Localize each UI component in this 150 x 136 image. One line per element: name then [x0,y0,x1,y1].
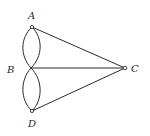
node-c [123,66,127,70]
edge-b-d-right [31,68,40,111]
edge-a-b-left [23,27,32,68]
label-d: D [27,118,36,129]
label-b: B [6,64,14,75]
node-a [30,25,33,28]
edge-d-c [32,68,125,111]
edge-a-b-right [31,27,40,68]
node-d [30,109,33,112]
edge-b-d-left [23,68,32,111]
graph-diagram: A B C D [0,0,150,136]
edge-a-c [32,27,125,68]
label-c: C [131,63,139,74]
label-a: A [27,10,35,21]
